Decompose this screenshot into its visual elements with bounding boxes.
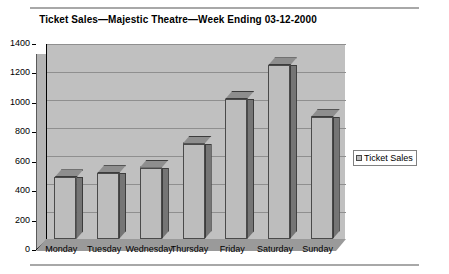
bar-top-face — [54, 169, 83, 177]
bar-side-face — [162, 168, 169, 239]
y-axis-tick-mark — [32, 162, 36, 163]
bar-front-face — [183, 144, 205, 239]
bar-top-face — [97, 165, 126, 173]
bar[interactable] — [54, 177, 76, 239]
y-axis-tick-label: 1400 — [0, 38, 30, 48]
legend-label: Ticket Sales — [364, 153, 413, 163]
bar[interactable] — [311, 117, 333, 239]
y-axis-tick-label: 1200 — [0, 67, 30, 77]
y-axis-tick-mark — [32, 250, 36, 251]
bar[interactable] — [225, 99, 247, 239]
gridline — [47, 128, 346, 129]
bar-side-face — [205, 144, 212, 239]
y-axis-tick-mark — [32, 73, 36, 74]
y-axis-tick-mark — [32, 103, 36, 104]
bar-front-face — [97, 173, 119, 239]
y-axis-tick-label: 400 — [0, 185, 30, 195]
bar-front-face — [311, 117, 333, 239]
bar-front-face — [225, 99, 247, 239]
bar[interactable] — [97, 173, 119, 239]
bar-side-face — [247, 99, 254, 239]
bar-side-face — [290, 65, 297, 239]
gridline — [47, 72, 346, 73]
gridline — [47, 44, 346, 45]
bar-top-face — [183, 136, 212, 144]
chart-title: Ticket Sales—Majestic Theatre—Week Endin… — [8, 14, 348, 25]
y-axis-tick-label: 200 — [0, 215, 30, 225]
chart-legend[interactable]: Ticket Sales — [353, 150, 417, 166]
bar-side-face — [76, 177, 83, 239]
bar[interactable] — [140, 168, 162, 239]
y-axis-tick-label: 600 — [0, 156, 30, 166]
bar-side-face — [119, 173, 126, 239]
y-axis-tick-mark — [32, 221, 36, 222]
gridline — [47, 100, 346, 101]
y-axis-tick-label: 0 — [0, 244, 30, 254]
chart-object[interactable]: Ticket Sales—Majestic Theatre—Week Endin… — [8, 11, 433, 259]
bar-front-face — [140, 168, 162, 239]
y-axis-tick-mark — [32, 44, 36, 45]
bar-front-face — [54, 177, 76, 239]
bar-side-face — [333, 117, 340, 239]
x-axis-category-label: Tuesday — [83, 244, 126, 254]
x-axis-category-label: Monday — [40, 244, 83, 254]
bar-top-face — [225, 91, 254, 99]
x-axis-category-label: Wednesday — [125, 244, 168, 254]
y-axis-tick-label: 1000 — [0, 97, 30, 107]
bar-front-face — [268, 65, 290, 239]
bar[interactable] — [268, 65, 290, 239]
page-divider-top — [30, 7, 419, 9]
x-axis-category-label: Thursday — [168, 244, 211, 254]
page-divider-bottom — [30, 264, 419, 266]
bar[interactable] — [183, 144, 205, 239]
bar-top-face — [268, 57, 297, 65]
plot-area — [46, 44, 345, 240]
bar-top-face — [140, 160, 169, 168]
y-axis-tick-mark — [32, 132, 36, 133]
bar-top-face — [311, 109, 340, 117]
x-axis-category-label: Sunday — [296, 244, 339, 254]
y-axis-tick-label: 800 — [0, 126, 30, 136]
x-axis-category-label: Saturday — [254, 244, 297, 254]
page-canvas: Ticket Sales—Majestic Theatre—Week Endin… — [0, 0, 449, 274]
x-axis-category-label: Friday — [211, 244, 254, 254]
legend-swatch-icon — [356, 155, 362, 161]
y-axis-tick-mark — [32, 191, 36, 192]
